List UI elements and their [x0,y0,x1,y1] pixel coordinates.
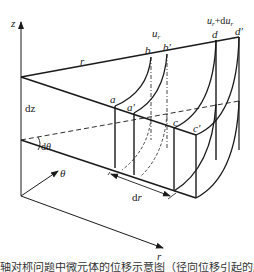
diagram-figure: z θ r [0,0,254,272]
u-r-plus-du-r-label: ur+dur [207,15,233,28]
point-a-label: a [110,93,116,105]
figure-caption: 轴对称问题中微元体的位移示意图（径向位移引起的应变） [0,262,254,272]
dtheta-indicator: dθ [38,137,51,152]
point-c-prime-label: c′ [193,122,201,134]
u-r-label: ur [152,27,161,41]
theta-axis-label: θ [60,167,66,179]
point-c-label: c [173,116,178,128]
theta-axis: θ [21,167,66,196]
z-axis-label: z [10,17,16,29]
r-axis-label: r [157,250,162,262]
z-axis: z [10,17,21,196]
point-d-prime-label: d′ [235,25,244,37]
point-b-prime-label: b′ [163,41,172,53]
r-edge-label: r [80,55,85,67]
r-axis: r [21,196,163,262]
point-d-label: d [212,28,218,40]
dr-label: dr [132,191,143,203]
dz-label: dz [25,102,36,114]
point-b-label: b [145,44,151,56]
point-a-prime-label: a′ [127,101,136,113]
dtheta-label: dθ [41,141,51,152]
